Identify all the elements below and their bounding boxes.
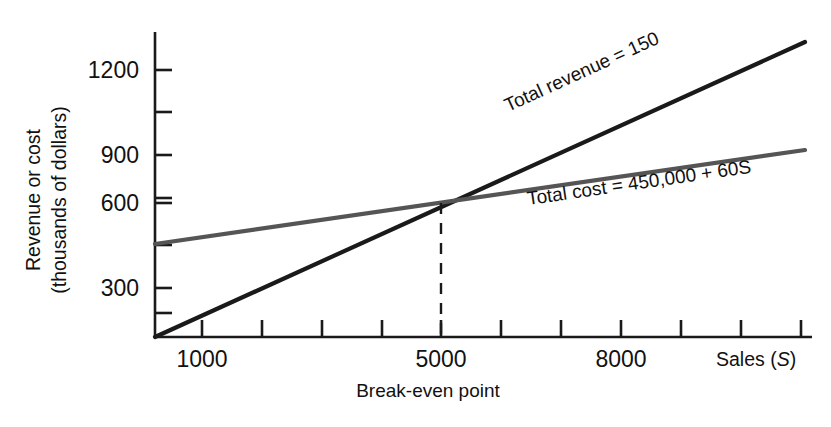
x-tick-label-5000: 5000 xyxy=(415,346,466,372)
svg-text:Sales (S): Sales (S) xyxy=(716,348,796,370)
break-even-point-caption: Break-even point xyxy=(356,380,500,401)
break-even-chart: 1200 900 600 300 1000 5000 8000 Sales (S… xyxy=(0,0,831,427)
y-tick-label-900: 900 xyxy=(101,142,139,168)
x-tick-label-1000: 1000 xyxy=(176,346,227,372)
chart-canvas: 1200 900 600 300 1000 5000 8000 Sales (S… xyxy=(0,0,831,427)
y-tick-label-600: 600 xyxy=(101,190,139,216)
y-tick-label-300: 300 xyxy=(101,275,139,301)
x-axis-title-paren: ) xyxy=(790,348,797,370)
y-axis-title-line1: Revenue or cost xyxy=(22,128,44,271)
y-axis-title-line2: (thousands of dollars) xyxy=(48,106,70,294)
x-tick-label-8000: 8000 xyxy=(595,346,646,372)
x-axis-title-variable: S xyxy=(777,348,790,370)
y-tick-label-1200: 1200 xyxy=(88,57,139,83)
x-axis-title-sales: Sales ( xyxy=(716,348,777,370)
x-axis-title: Sales (S) xyxy=(716,348,796,370)
